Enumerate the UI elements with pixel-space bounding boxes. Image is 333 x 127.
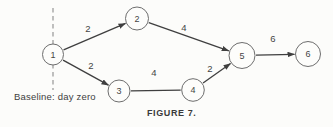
edge-weight-1-3: 2 xyxy=(88,60,93,71)
edge-weight-1-2: 2 xyxy=(85,23,90,34)
edge-weight-4-5: 2 xyxy=(207,63,212,74)
edge-1-3 xyxy=(63,60,108,85)
node-label-4: 4 xyxy=(190,85,195,95)
figure-caption: FIGURE 7. xyxy=(147,108,196,118)
edge-5-6 xyxy=(256,54,295,55)
edge-weight-3-4: 4 xyxy=(151,67,156,78)
edge-weight-2-5: 4 xyxy=(181,22,186,33)
node-label-1: 1 xyxy=(50,50,55,60)
figure-canvas: 224426123456 Baseline: day zero FIGURE 7… xyxy=(0,0,333,127)
edge-2-5 xyxy=(149,23,229,51)
node-label-6: 6 xyxy=(305,49,310,59)
edge-1-2 xyxy=(64,23,126,50)
node-label-2: 2 xyxy=(134,14,139,24)
edge-3-4 xyxy=(131,90,181,91)
node-label-3: 3 xyxy=(116,86,121,96)
baseline-label: Baseline: day zero xyxy=(14,91,96,102)
edge-weight-5-6: 6 xyxy=(270,33,275,44)
node-label-5: 5 xyxy=(239,51,244,61)
